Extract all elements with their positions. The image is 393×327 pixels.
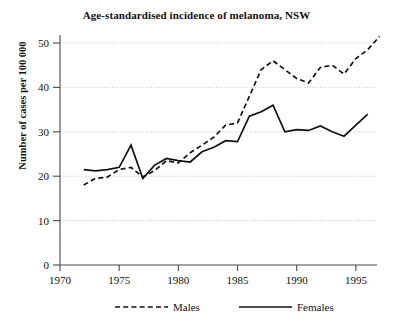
x-tick-marks-group bbox=[60, 265, 356, 271]
data-series-group bbox=[84, 36, 380, 185]
chart-plot-area: 01020304050 197019751980198519901995 Mal… bbox=[0, 0, 393, 327]
legend-label-females: Females bbox=[297, 301, 334, 313]
y-tick-label-20: 20 bbox=[38, 170, 50, 182]
x-tick-label-1975: 1975 bbox=[108, 274, 131, 286]
y-tick-label-0: 0 bbox=[44, 259, 50, 271]
chart-legend: MalesFemales bbox=[115, 301, 334, 313]
x-tick-label-1995: 1995 bbox=[345, 274, 368, 286]
legend-label-males: Males bbox=[173, 301, 200, 313]
x-tick-label-1990: 1990 bbox=[286, 274, 309, 286]
y-tick-marks-group bbox=[53, 43, 60, 265]
x-tick-label-1970: 1970 bbox=[49, 274, 72, 286]
chart-page: Age-standardised incidence of melanoma, … bbox=[0, 0, 393, 327]
y-tick-label-10: 10 bbox=[38, 215, 50, 227]
series-line-males bbox=[84, 36, 380, 185]
x-tick-labels-group: 197019751980198519901995 bbox=[49, 274, 367, 286]
y-tick-label-50: 50 bbox=[38, 37, 50, 49]
y-tick-label-30: 30 bbox=[38, 126, 50, 138]
y-tick-labels-group: 01020304050 bbox=[38, 37, 50, 271]
y-tick-label-40: 40 bbox=[38, 81, 50, 93]
series-line-females bbox=[84, 105, 368, 178]
x-tick-label-1980: 1980 bbox=[167, 274, 190, 286]
x-tick-label-1985: 1985 bbox=[227, 274, 250, 286]
